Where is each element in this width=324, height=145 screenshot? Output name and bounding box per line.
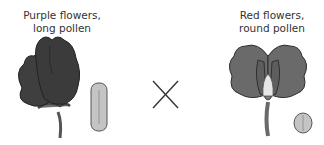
round-pollen-icon xyxy=(294,113,312,133)
long-pollen-icon xyxy=(91,83,107,131)
cross-icon xyxy=(153,81,178,108)
purple-flower-icon xyxy=(18,37,79,138)
pea-cross-diagram: Purple flowers, long pollen Red flowers,… xyxy=(0,0,324,145)
